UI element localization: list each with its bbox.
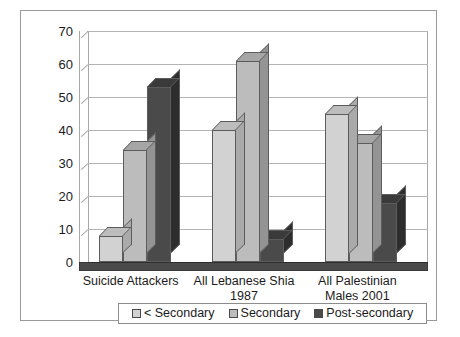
y-axis-tick-label: 10 — [39, 223, 73, 236]
bar — [99, 236, 123, 262]
legend-color-swatch — [314, 309, 323, 318]
bar-front-face — [325, 114, 349, 263]
bar-side-face — [147, 132, 156, 253]
x-axis-category-label: Suicide Attackers — [74, 274, 187, 289]
legend-item: Post-secondary — [314, 307, 413, 320]
category-label-line: All Palestinian — [301, 274, 414, 289]
y-axis-tick-label: 30 — [39, 157, 73, 170]
bar-side-face — [373, 125, 382, 252]
bar — [325, 114, 349, 263]
x-axis-category-label: All PalestinianMales 2001 — [301, 274, 414, 304]
chart-legend: < SecondarySecondaryPost-secondary — [118, 303, 427, 324]
legend-color-swatch — [229, 309, 238, 318]
y-axis-tick-label: 20 — [39, 190, 73, 203]
bar-side-face — [260, 43, 269, 253]
legend-color-swatch — [132, 309, 141, 318]
y-axis-tick-label: 0 — [39, 256, 73, 269]
legend-label: Secondary — [241, 307, 301, 320]
y-axis-tick-label: 60 — [39, 58, 73, 71]
legend-label: < Secondary — [144, 307, 215, 320]
legend-item: Secondary — [229, 307, 301, 320]
x-axis-category-label: All Lebanese Shia1987 — [187, 274, 300, 304]
legend-label: Post-secondary — [326, 307, 413, 320]
bar-side-face — [236, 112, 245, 253]
bar-side-face — [171, 69, 180, 253]
y-axis-tick-label: 70 — [39, 25, 73, 38]
category-label-line: 1987 — [187, 289, 300, 304]
bars-layer — [79, 31, 428, 271]
bar-front-face — [99, 236, 123, 262]
y-axis-tick-label: 40 — [39, 124, 73, 137]
category-label-line: All Lebanese Shia — [187, 274, 300, 289]
legend-item: < Secondary — [132, 307, 215, 320]
bar-front-face — [212, 130, 236, 262]
category-label-line: Males 2001 — [301, 289, 414, 304]
chart-frame: 706050403020100 Suicide AttackersAll Leb… — [20, 10, 437, 321]
category-label-line: Suicide Attackers — [74, 274, 187, 289]
y-axis-tick-label: 50 — [39, 91, 73, 104]
y-axis: 706050403020100 — [33, 31, 73, 271]
bar — [212, 130, 236, 262]
bar-side-face — [349, 96, 358, 253]
